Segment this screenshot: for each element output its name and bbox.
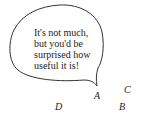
- point-label-a: A: [94, 91, 100, 101]
- bubble-line: It's not much,: [34, 27, 104, 38]
- bubble-line: but you'd be: [34, 38, 104, 49]
- point-label-c: C: [124, 85, 131, 95]
- point-label-b: B: [119, 102, 125, 112]
- point-label-d: D: [55, 102, 62, 112]
- speech-bubble-text: It's not much, but you'd be surprised ho…: [34, 27, 104, 71]
- bubble-line: useful it is!: [34, 60, 104, 71]
- bubble-line: surprised how: [34, 49, 104, 60]
